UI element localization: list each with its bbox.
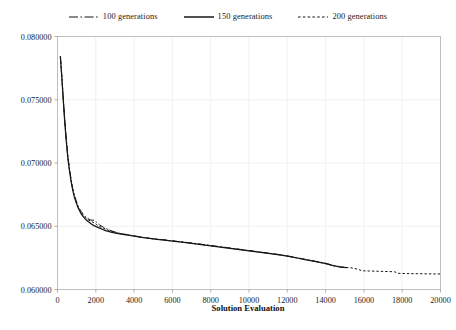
plot-area: 0.0600000.0650000.0700000.0750000.080000…	[0, 0, 456, 330]
x-axis-title: Solution Evaluation	[212, 303, 285, 313]
gridlines	[58, 37, 441, 290]
y-axis-tick-labels: 0.0600000.0650000.0700000.0750000.080000	[21, 33, 52, 295]
series-line-100-generations	[60, 57, 346, 268]
y-tick-label: 0.070000	[21, 159, 52, 168]
x-tick-label: 4000	[126, 296, 142, 305]
x-tick-label: 0	[55, 296, 59, 305]
x-tick-label: 14000	[315, 296, 335, 305]
x-tick-label: 20000	[430, 296, 450, 305]
x-tick-label: 2000	[88, 296, 104, 305]
y-tick-label: 0.060000	[21, 286, 52, 295]
series-line-150-generations	[60, 56, 346, 268]
line-chart: 100 generations 150 generations 200 gene…	[0, 0, 456, 330]
x-tick-label: 16000	[354, 296, 374, 305]
x-tick-label: 6000	[164, 296, 180, 305]
y-tick-label: 0.080000	[21, 33, 52, 42]
data-series	[60, 56, 440, 274]
y-tick-label: 0.075000	[21, 96, 52, 105]
y-tick-label: 0.065000	[21, 222, 52, 231]
series-line-200-generations	[60, 57, 440, 274]
axis-ticks	[55, 37, 441, 293]
x-tick-label: 18000	[392, 296, 412, 305]
